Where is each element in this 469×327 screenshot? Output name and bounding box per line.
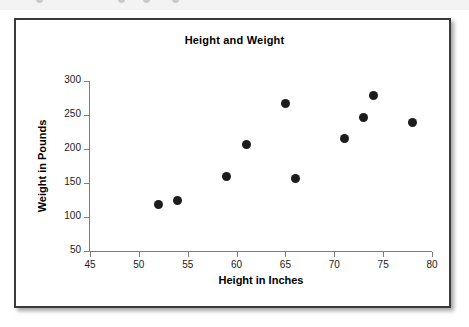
- x-tick-label: 75: [378, 259, 389, 270]
- x-tick-mark: [432, 252, 433, 257]
- artifact-dot: [172, 0, 179, 3]
- x-tick-label: 45: [84, 259, 95, 270]
- x-tick-label: 65: [280, 259, 291, 270]
- scatter-point: [242, 140, 251, 149]
- scatter-point: [173, 196, 182, 205]
- y-tick-label: 50: [70, 244, 81, 255]
- y-tick-mark: [84, 149, 89, 150]
- y-tick-label: 150: [64, 176, 81, 187]
- y-tick-label: 200: [64, 142, 81, 153]
- plot-area: 50100150200250300 4550556065707580: [90, 81, 432, 251]
- scatter-point: [359, 113, 368, 122]
- x-tick-mark: [285, 252, 286, 257]
- x-tick-label: 50: [133, 259, 144, 270]
- x-tick-label: 55: [182, 259, 193, 270]
- x-tick-mark: [90, 252, 91, 257]
- chart-title: Height and Weight: [16, 34, 453, 46]
- x-tick-label: 60: [231, 259, 242, 270]
- scatter-point: [222, 172, 231, 181]
- y-tick-mark: [84, 183, 89, 184]
- x-tick-mark: [139, 252, 140, 257]
- y-tick-mark: [84, 115, 89, 116]
- x-tick-label: 80: [426, 259, 437, 270]
- scatter-point: [408, 118, 417, 127]
- scatter-point: [340, 134, 349, 143]
- scatter-point: [281, 99, 290, 108]
- y-tick-mark: [84, 217, 89, 218]
- x-tick-mark: [383, 252, 384, 257]
- y-axis-label: Weight in Pounds: [36, 81, 50, 251]
- y-tick-label: 300: [64, 74, 81, 85]
- y-tick-mark: [84, 251, 89, 252]
- x-axis-label: Height in Inches: [90, 274, 432, 286]
- artifact-dot: [143, 0, 150, 3]
- chart-figure-frame: Height and Weight Weight in Pounds Heigh…: [14, 18, 451, 308]
- y-tick-label: 100: [64, 210, 81, 221]
- artifact-dot: [36, 0, 43, 3]
- x-axis-line: [89, 251, 432, 252]
- y-tick-mark: [84, 81, 89, 82]
- artifact-dot: [118, 0, 125, 3]
- x-tick-mark: [237, 252, 238, 257]
- x-tick-mark: [334, 252, 335, 257]
- scatter-point: [369, 91, 378, 100]
- scatter-point: [291, 174, 300, 183]
- cropped-row-artifact: [0, 0, 469, 10]
- x-tick-mark: [188, 252, 189, 257]
- y-tick-label: 250: [64, 108, 81, 119]
- scatter-point: [154, 200, 163, 209]
- y-axis-line: [89, 81, 90, 252]
- x-tick-label: 70: [329, 259, 340, 270]
